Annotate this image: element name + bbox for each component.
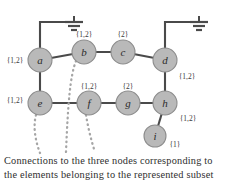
node-f[interactable]: f xyxy=(77,91,101,115)
node-a[interactable]: a xyxy=(28,48,52,72)
node-tag-g: {2} xyxy=(123,82,134,91)
node-tag-b: {1,2} xyxy=(76,30,93,39)
node-tag-i: {1} xyxy=(170,140,181,149)
node-g[interactable]: g xyxy=(116,91,140,115)
node-label-g: g xyxy=(125,97,131,109)
node-e[interactable]: e xyxy=(28,91,52,115)
diagram-canvas: a {1,2} b {1,2} c {2} d {1,2} e {1, xyxy=(0,0,228,191)
node-i[interactable]: i xyxy=(144,125,166,147)
node-tag-a: {1,2} xyxy=(7,56,24,65)
node-h[interactable]: h xyxy=(153,91,177,115)
ground-icon-right xyxy=(190,16,208,30)
node-d[interactable]: d xyxy=(153,48,177,72)
node-label-b: b xyxy=(81,46,87,58)
node-label-i: i xyxy=(153,130,156,142)
node-label-h: h xyxy=(162,97,168,109)
node-tag-c: {2} xyxy=(118,30,129,39)
node-tag-d: {1,2} xyxy=(179,72,196,81)
dotted-from-b xyxy=(66,61,76,152)
diagram-caption: Connections to the three nodes correspon… xyxy=(4,154,226,181)
caption-line-2: the elements belonging to the represente… xyxy=(4,168,226,182)
caption-line-1: Connections to the three nodes correspon… xyxy=(4,154,226,168)
node-label-d: d xyxy=(162,54,168,66)
edge-group xyxy=(40,52,165,136)
node-label-a: a xyxy=(37,54,43,66)
node-b[interactable]: b xyxy=(72,40,96,64)
dotted-from-e xyxy=(35,115,40,153)
node-c[interactable]: c xyxy=(111,40,135,64)
node-tag-f: {1,2} xyxy=(81,82,98,91)
node-tag-e: {1,2} xyxy=(7,96,24,105)
node-label-c: c xyxy=(121,46,126,58)
dotted-from-f xyxy=(86,115,95,152)
node-label-e: e xyxy=(38,97,43,109)
node-tag-h: {1,2} xyxy=(180,114,197,123)
ground-icon-left xyxy=(65,16,83,30)
